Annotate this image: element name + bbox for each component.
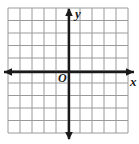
y-axis-label: y [75, 7, 81, 20]
origin-label: O [58, 72, 67, 84]
coordinate-plane-figure: y x O [0, 0, 139, 144]
x-axis-label: x [130, 75, 137, 88]
coordinate-plane-canvas [0, 0, 139, 144]
